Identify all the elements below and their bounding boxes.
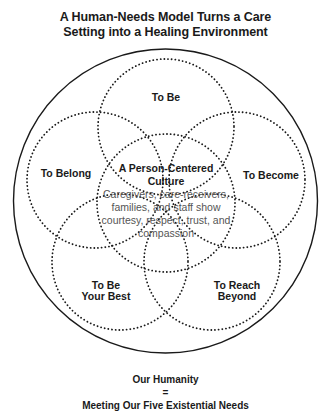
footer-line-3: Meeting Our Five Existential Needs bbox=[0, 399, 331, 412]
label-to-become: To Become bbox=[236, 170, 306, 181]
label-to-be-your-best-line-2: Your Best bbox=[76, 291, 136, 302]
footer-line-1: Our Humanity bbox=[0, 373, 331, 386]
label-to-be: To Be bbox=[146, 92, 186, 103]
center-title-line-1: A Person-Centered bbox=[96, 162, 236, 175]
label-to-belong: To Belong bbox=[36, 168, 96, 179]
center-title: A Person-Centered Culture bbox=[96, 162, 236, 188]
footer-caption: Our Humanity = Meeting Our Five Existent… bbox=[0, 373, 331, 412]
center-description: Caregivers, care-receivers, families, an… bbox=[96, 188, 236, 240]
center-title-line-2: Culture bbox=[96, 175, 236, 188]
label-to-be-your-best: To Be Your Best bbox=[76, 280, 136, 302]
label-to-reach-beyond: To Reach Beyond bbox=[205, 280, 269, 302]
label-to-reach-beyond-line-2: Beyond bbox=[205, 291, 269, 302]
footer-line-2: = bbox=[0, 386, 331, 399]
